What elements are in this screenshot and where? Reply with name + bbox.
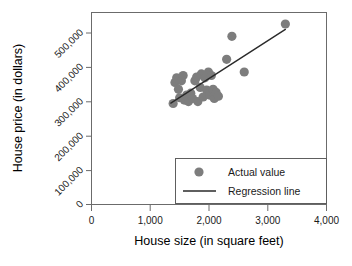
y-tick-label-200000: 200,000 xyxy=(52,130,86,164)
y-tick-label-300000: 300,000 xyxy=(52,95,86,129)
data-point xyxy=(179,71,188,80)
chart-svg: 500,000 400,000 300,000 200,000 100,000 … xyxy=(0,0,352,266)
x-tick-label-0: 0 xyxy=(89,215,95,226)
x-tick-label-4000: 4,000 xyxy=(314,215,339,226)
legend-marker-actual-value xyxy=(194,167,203,176)
x-tick-label-1000: 1,000 xyxy=(138,215,163,226)
data-point xyxy=(227,32,236,41)
y-tick-label-0: 0 xyxy=(74,198,86,210)
y-tick-label-500000: 500,000 xyxy=(52,26,86,60)
scatter-chart: 500,000 400,000 300,000 200,000 100,000 … xyxy=(0,0,352,266)
data-point xyxy=(214,92,223,101)
x-axis-ticks xyxy=(92,205,327,212)
x-tick-label-2000: 2,000 xyxy=(196,215,221,226)
y-tick-label-400000: 400,000 xyxy=(52,61,86,95)
legend: Actual value Regression line xyxy=(176,159,327,204)
data-point xyxy=(240,67,249,76)
legend-label-actual-value: Actual value xyxy=(228,166,285,178)
data-point-group xyxy=(169,19,290,108)
y-axis-tick-labels: 500,000 400,000 300,000 200,000 100,000 … xyxy=(52,26,86,210)
y-axis-title: House price (in dollars) xyxy=(11,44,25,173)
x-axis-tick-labels: 0 1,000 2,000 3,000 4,000 xyxy=(89,215,340,226)
data-point xyxy=(281,19,290,28)
legend-label-regression-line: Regression line xyxy=(228,185,301,197)
regression-line xyxy=(171,29,286,103)
x-axis-title: House size (in square feet) xyxy=(134,234,283,248)
x-tick-label-3000: 3,000 xyxy=(255,215,280,226)
data-point xyxy=(174,85,183,94)
y-axis-ticks xyxy=(86,33,92,205)
y-tick-label-100000: 100,000 xyxy=(52,164,86,198)
data-point xyxy=(222,55,231,64)
